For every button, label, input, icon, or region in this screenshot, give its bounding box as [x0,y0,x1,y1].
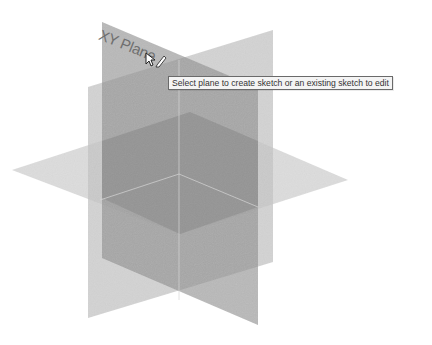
select-pointer-with-sketch-icon [145,52,167,68]
origin-planes [0,0,432,345]
3d-viewport[interactable]: XY Plane Select plane to create sketch o… [0,0,432,345]
tooltip: Select plane to create sketch or an exis… [168,76,393,90]
